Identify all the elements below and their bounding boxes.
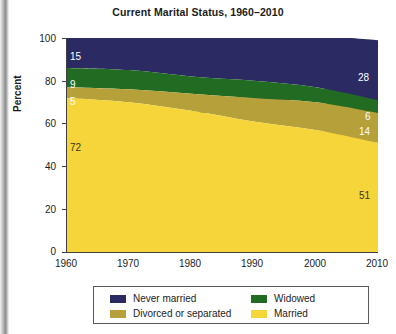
y-tick-label-80: 80 bbox=[24, 76, 56, 87]
legend-item-married: Married bbox=[251, 308, 308, 319]
area-series-group bbox=[67, 38, 378, 252]
value-label-widowed-1960: 9 bbox=[70, 79, 76, 90]
legend-label-divorced-or-separated: Divorced or separated bbox=[133, 308, 231, 319]
value-label-never-married-2010: 28 bbox=[358, 72, 369, 83]
y-tick-label-20: 20 bbox=[24, 204, 56, 215]
legend-swatch-married bbox=[251, 310, 267, 318]
stacked-area-plot bbox=[67, 38, 378, 252]
legend-label-widowed: Widowed bbox=[274, 293, 315, 304]
x-tick-label-1960: 1960 bbox=[46, 258, 86, 269]
value-label-divorced-1960: 5 bbox=[70, 96, 76, 107]
legend-label-married: Married bbox=[274, 308, 308, 319]
y-axis-title: Percent bbox=[12, 75, 23, 112]
x-tick-label-1990: 1990 bbox=[232, 258, 272, 269]
legend-item-widowed: Widowed bbox=[251, 293, 315, 304]
chart-title: Current Marital Status, 1960–2010 bbox=[0, 6, 396, 18]
legend-swatch-widowed bbox=[251, 295, 267, 303]
x-tick-label-2010: 2010 bbox=[357, 258, 396, 269]
y-tick-label-100: 100 bbox=[24, 33, 56, 44]
y-tick-label-60: 60 bbox=[24, 118, 56, 129]
y-tick-label-40: 40 bbox=[24, 161, 56, 172]
chart-figure: Current Marital Status, 1960–2010 100 80… bbox=[0, 0, 396, 334]
legend-item-never-married: Never married bbox=[110, 293, 196, 304]
legend: Never married Divorced or separated Wido… bbox=[93, 286, 369, 324]
x-tick-label-2000: 2000 bbox=[295, 258, 335, 269]
x-tick-label-1970: 1970 bbox=[108, 258, 148, 269]
value-label-divorced-2010: 14 bbox=[359, 126, 370, 137]
legend-label-never-married: Never married bbox=[133, 293, 196, 304]
y-tick-label-0: 0 bbox=[24, 246, 56, 257]
value-label-married-1960: 72 bbox=[70, 142, 81, 153]
value-label-widowed-2010: 6 bbox=[365, 111, 371, 122]
legend-item-divorced-or-separated: Divorced or separated bbox=[110, 308, 231, 319]
plot-area bbox=[66, 38, 378, 253]
value-label-married-2010: 51 bbox=[359, 190, 370, 201]
legend-swatch-divorced-or-separated bbox=[110, 310, 126, 318]
value-label-never-married-1960: 15 bbox=[70, 51, 81, 62]
page-gutter-shadow bbox=[0, 0, 9, 334]
legend-swatch-never-married bbox=[110, 295, 126, 303]
x-tick-label-1980: 1980 bbox=[170, 258, 210, 269]
